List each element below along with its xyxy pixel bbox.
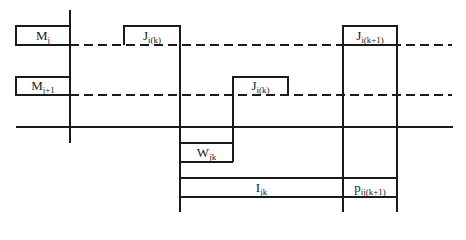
label-jik-mj: Ji(k)	[124, 29, 180, 45]
label-jik1-mj: Ji(k+1)	[343, 29, 397, 45]
label-jik-mj1: Ji(k)	[233, 79, 288, 95]
label-wjk: Wjk	[180, 146, 233, 162]
label-pijk1: pij(k+1)	[343, 181, 397, 197]
label-mj1: Mj+1	[16, 79, 70, 95]
label-mj: Mj	[16, 29, 70, 45]
label-ijk: Ijk	[180, 181, 343, 197]
